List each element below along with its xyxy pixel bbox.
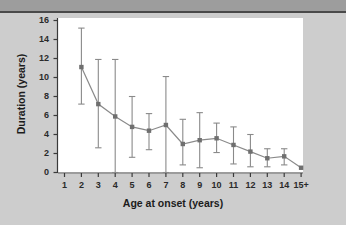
data-point-marker	[231, 143, 235, 147]
y-axis-label: Duration (years)	[15, 29, 27, 159]
series-markers	[79, 65, 303, 170]
data-point-marker	[164, 123, 168, 127]
data-point-marker	[79, 65, 83, 69]
data-point-marker	[198, 138, 202, 142]
y-tick-label: 16	[27, 16, 49, 25]
figure-container: 0246810121416 123456789101112131415+ Age…	[0, 0, 346, 225]
data-point-marker	[214, 136, 218, 140]
y-tick-label: 4	[27, 130, 49, 139]
x-tick-label: 15+	[290, 181, 312, 190]
data-point-marker	[147, 129, 151, 133]
data-point-marker	[248, 149, 252, 153]
data-point-marker	[96, 102, 100, 106]
data-point-marker	[113, 114, 117, 118]
error-bars	[78, 28, 287, 172]
y-tick-label: 6	[27, 111, 49, 120]
x-tick-marks	[65, 173, 302, 177]
y-tick-label: 10	[27, 73, 49, 82]
chart-svg	[0, 0, 346, 225]
x-axis-label: Age at onset (years)	[0, 197, 346, 209]
y-tick-label: 2	[27, 149, 49, 158]
data-point-marker	[299, 166, 303, 170]
data-point-marker	[181, 142, 185, 146]
y-tick-label: 8	[27, 92, 49, 101]
y-tick-label: 0	[27, 168, 49, 177]
y-tick-label: 14	[27, 35, 49, 44]
data-point-marker	[130, 125, 134, 129]
y-tick-label: 12	[27, 54, 49, 63]
data-point-marker	[265, 156, 269, 160]
data-point-marker	[282, 154, 286, 158]
